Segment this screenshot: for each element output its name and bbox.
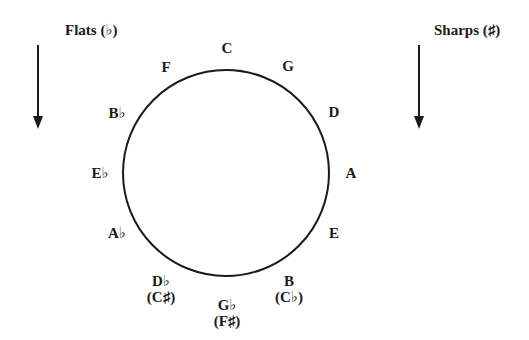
key-label-a: A bbox=[346, 165, 357, 181]
key-label-d-flat: D♭ (C♯) bbox=[147, 273, 175, 305]
circle-of-fifths-diagram bbox=[0, 0, 529, 340]
key-label-b: B (C♭) bbox=[275, 273, 303, 305]
key-name: G♭ bbox=[214, 297, 241, 313]
key-name: D♭ bbox=[147, 273, 175, 289]
flats-heading: Flats (♭) bbox=[65, 22, 117, 38]
key-label-e-flat: E♭ bbox=[91, 165, 108, 181]
key-label-b-flat: B♭ bbox=[108, 105, 125, 121]
key-enharmonic: (F♯) bbox=[214, 313, 241, 329]
key-label-g: G bbox=[282, 58, 294, 74]
key-label-g-flat: G♭ (F♯) bbox=[214, 297, 241, 329]
flats-direction-arrow-icon bbox=[33, 45, 43, 129]
key-label-e: E bbox=[329, 225, 339, 241]
sharps-heading: Sharps (♯) bbox=[434, 22, 500, 38]
key-enharmonic: (C♭) bbox=[275, 289, 303, 305]
sharps-direction-arrow-icon bbox=[414, 45, 424, 129]
key-name: B bbox=[275, 273, 303, 289]
key-label-c: C bbox=[222, 40, 233, 56]
key-enharmonic: (C♯) bbox=[147, 289, 175, 305]
key-label-a-flat: A♭ bbox=[108, 225, 126, 241]
key-label-f: F bbox=[161, 59, 170, 75]
key-label-d: D bbox=[329, 104, 340, 120]
circle-of-fifths-ring bbox=[123, 70, 329, 276]
